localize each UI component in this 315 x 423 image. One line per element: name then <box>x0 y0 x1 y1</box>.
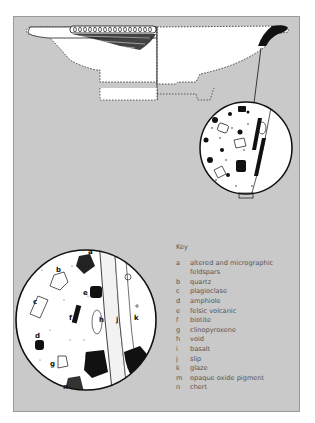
key-letter: b <box>176 278 190 288</box>
key-letter: a <box>176 259 190 278</box>
key-item: f biotite <box>176 316 290 326</box>
key-item: d amphiole <box>176 297 290 307</box>
key-letter: i <box>176 345 190 355</box>
key-letter: j <box>176 355 190 365</box>
key-legend: Key a altered and micrographic feldspars… <box>176 243 290 393</box>
key-letter: f <box>176 316 190 326</box>
inset-label-b: b <box>56 266 61 274</box>
key-item: b quartz <box>176 278 290 288</box>
key-item: k glaze <box>176 364 290 374</box>
bowl-profile <box>26 25 288 100</box>
upper-inset <box>200 102 292 200</box>
key-letter: m <box>176 374 190 384</box>
key-label: altered and micrographic feldspars <box>190 259 290 278</box>
key-item: i basalt <box>176 345 290 355</box>
key-label: slip <box>190 355 290 365</box>
key-letter: e <box>176 307 190 317</box>
key-label: opaque oxide pigment <box>190 374 290 384</box>
inset-label-d: d <box>35 332 40 340</box>
inset-label-k: k <box>134 314 139 322</box>
inset-label-c: c <box>33 298 37 306</box>
inset-label-g: g <box>50 360 55 368</box>
key-item: g clinopyroxene <box>176 326 290 336</box>
inset-label-m: m <box>135 350 142 358</box>
inset-label-i: i <box>85 352 87 360</box>
key-label: felsic volcanic <box>190 307 290 317</box>
key-letter: k <box>176 364 190 374</box>
inset-label-n: n <box>63 383 68 391</box>
key-item: m opaque oxide pigment <box>176 374 290 384</box>
key-label: biotite <box>190 316 290 326</box>
key-item: e felsic volcanic <box>176 307 290 317</box>
key-title: Key <box>176 243 290 253</box>
key-item: h void <box>176 335 290 345</box>
key-label: void <box>190 335 290 345</box>
lower-inset: a b c d e f g h i j k m n <box>16 240 160 400</box>
key-label: amphiole <box>190 297 290 307</box>
key-letter: d <box>176 297 190 307</box>
inset-label-h: h <box>99 316 104 324</box>
key-letter: h <box>176 335 190 345</box>
key-label: glaze <box>190 364 290 374</box>
key-item: a altered and micrographic feldspars <box>176 259 290 278</box>
key-item: n chert <box>176 383 290 393</box>
leader-line <box>254 48 261 103</box>
key-letter: n <box>176 383 190 393</box>
key-item: j slip <box>176 355 290 365</box>
inset-label-e: e <box>83 289 88 297</box>
key-label: basalt <box>190 345 290 355</box>
key-letter: c <box>176 287 190 297</box>
key-item: c plagioclase <box>176 287 290 297</box>
key-letter: g <box>176 326 190 336</box>
key-label: clinopyroxene <box>190 326 290 336</box>
inset-label-a: a <box>88 248 93 256</box>
inset-label-j: j <box>115 316 118 324</box>
key-label: chert <box>190 383 290 393</box>
key-label: plagioclase <box>190 287 290 297</box>
key-label: quartz <box>190 278 290 288</box>
